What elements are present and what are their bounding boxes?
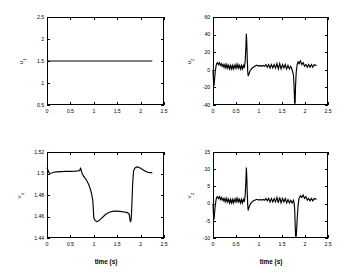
trace-svg <box>0 0 345 277</box>
figure-container: 0.511.522.500.511.522.5u1-40-20020406000… <box>0 0 345 277</box>
data-line-v2 <box>213 167 317 236</box>
subplot-bottom-right: -10-505101500.511.522.5v2time (s) <box>0 0 345 277</box>
